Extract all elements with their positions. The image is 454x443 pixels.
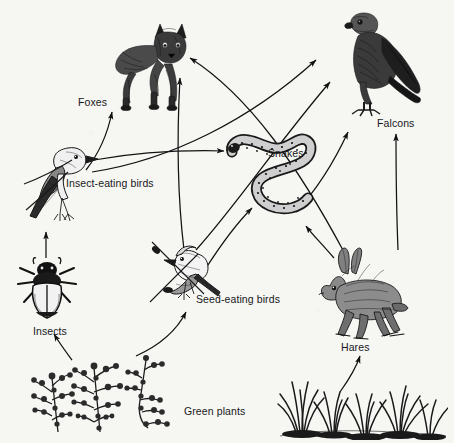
label-insects: Insects <box>33 325 67 337</box>
grass-illustration <box>272 352 448 440</box>
fox-illustration <box>108 18 198 112</box>
beetle-illustration <box>16 256 80 324</box>
falcon-illustration <box>330 10 428 122</box>
label-snakes: Snakes <box>268 147 304 159</box>
food-web-diagram: Foxes <box>0 0 454 443</box>
hare-illustration <box>316 246 412 342</box>
label-foxes: Foxes <box>78 96 107 108</box>
plants-illustration <box>28 338 180 434</box>
arrow-hares-to-falcons <box>396 134 398 250</box>
label-insect-eating-birds: Insect-eating birds <box>66 177 154 189</box>
label-falcons: Falcons <box>377 117 414 129</box>
label-seed-eating-birds: Seed-eating birds <box>196 293 280 305</box>
seed-eating-bird-illustration <box>146 236 234 322</box>
label-green-plants: Green plants <box>184 405 245 417</box>
snake-illustration <box>226 126 322 230</box>
